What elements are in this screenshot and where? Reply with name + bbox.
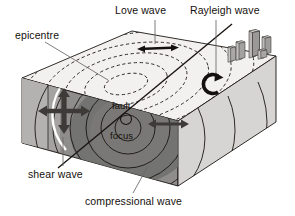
label-epicentre: epicentre <box>15 30 59 41</box>
label-focus: focus <box>110 131 133 141</box>
label-rayleigh-wave: Rayleigh wave <box>190 5 260 16</box>
label-fault: fault <box>112 101 130 111</box>
seismic-wave-diagram: Love wave Rayleigh wave epicentre shear … <box>0 0 295 216</box>
label-love-wave: Love wave <box>115 5 166 16</box>
label-compressional-wave: compressional wave <box>85 196 182 207</box>
city-buildings-icon <box>228 30 271 63</box>
label-shear-wave: shear wave <box>28 169 83 180</box>
